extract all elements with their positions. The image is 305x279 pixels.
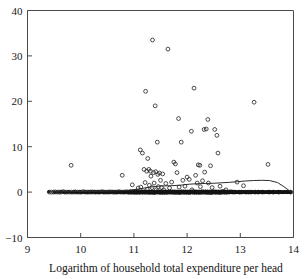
plot-canvas: −1001020304091011121314 Logarithm of hou… [0,0,305,279]
data-point [69,163,73,167]
data-point [151,38,155,42]
data-point [144,89,148,93]
data-point [192,86,196,90]
data-point [187,177,191,181]
data-points [47,38,292,194]
data-point [216,151,220,155]
x-tick-label: 13 [235,243,247,255]
y-tick-label: 30 [12,50,24,62]
data-point [166,47,170,51]
data-point [210,186,214,190]
data-point [185,175,189,179]
data-point [201,179,205,183]
data-point [179,140,183,144]
data-point [218,184,222,188]
data-point [189,129,193,133]
data-point [149,174,153,178]
data-point [150,186,154,190]
x-tick-label: 11 [129,243,140,255]
data-point [146,157,150,161]
data-point [175,171,179,175]
plot-axes [28,11,294,238]
x-tick-label: 14 [288,243,300,255]
x-tick-label: 12 [182,243,193,255]
data-point [252,100,256,104]
data-point [120,173,124,177]
data-point [209,164,213,168]
data-point [170,180,174,184]
data-point [215,133,219,137]
y-tick-label: −10 [5,232,23,244]
x-axis-title: Logarithm of household total expenditure… [49,262,283,275]
data-point [242,184,246,188]
data-point [206,118,210,122]
data-point [266,163,270,167]
data-point [159,178,163,182]
scatter-plot-figure: −1001020304091011121314 Logarithm of hou… [0,0,305,279]
y-tick-label: 10 [12,141,24,153]
data-point [181,178,185,182]
data-point [130,183,134,187]
data-point [177,117,181,121]
y-tick-label: 0 [17,186,23,198]
data-point [155,140,159,144]
data-point [195,181,199,185]
x-tick-label: 10 [75,243,87,255]
data-point [141,151,145,155]
data-point [168,186,172,190]
axis-ticks [28,11,294,238]
data-point [152,181,156,185]
x-tick-label: 9 [25,243,31,255]
data-point [213,128,217,132]
data-point [203,170,207,174]
y-tick-label: 40 [12,5,24,17]
y-tick-label: 20 [12,95,24,107]
data-point [143,181,147,185]
data-point [153,104,157,108]
data-point [194,173,198,177]
data-point [199,185,203,189]
data-point [164,182,168,186]
